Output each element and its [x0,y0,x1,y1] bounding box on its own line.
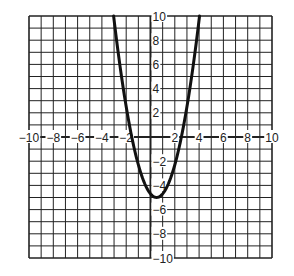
x-tick-label: −10 [19,131,40,145]
y-tick-label: 2 [153,106,160,120]
y-tick-label: −2 [153,155,167,169]
y-tick-label: −10 [153,252,174,266]
x-tick-label: 8 [244,131,251,145]
y-tick-label: 6 [153,58,160,72]
x-tick-label: 6 [220,131,227,145]
x-tick-label: −6 [71,131,85,145]
coordinate-plane: −10−8−6−4−2246810 108642−2−4−6−8−10 [0,0,294,276]
x-tick-label: 10 [265,131,279,145]
x-tick-label: 4 [196,131,203,145]
y-tick-label: 10 [153,10,167,24]
x-tick-label: −8 [46,131,60,145]
x-tick-label: 2 [171,131,178,145]
y-tick-label: 4 [153,82,160,96]
x-tick-label: −4 [95,131,109,145]
y-tick-label: −6 [153,203,167,217]
y-tick-label: −8 [153,227,167,241]
y-tick-label: 8 [153,34,160,48]
